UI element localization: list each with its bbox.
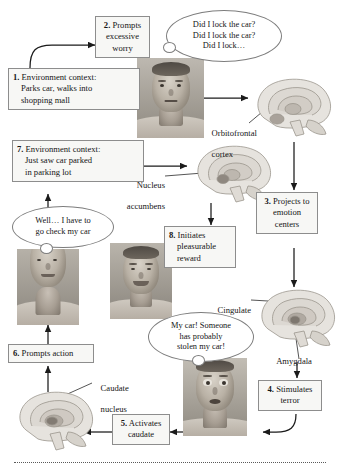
step-1-line-2: Parks car, walks into xyxy=(13,83,135,94)
thought-stolen-line-3: stolen my car! xyxy=(177,342,225,351)
photo-smiling-man xyxy=(110,243,172,319)
photo-nose xyxy=(213,387,218,395)
photo-brow-left xyxy=(158,80,166,82)
thought-tail-stolen-car xyxy=(192,355,205,366)
photo-brow-right xyxy=(175,80,183,82)
label-orbitofrontal-cortex: Orbitofrontal cortex xyxy=(203,117,257,170)
photo-eye-right xyxy=(177,84,181,87)
photo-eye-right xyxy=(147,268,151,270)
photo-mouth xyxy=(41,274,55,277)
brain-caudate xyxy=(10,388,98,458)
thought-worry-text: Did I lock the car? Did I lock the car? … xyxy=(193,20,255,52)
photo-worried-man xyxy=(137,58,204,138)
step-box-2[interactable]: 2. Prompts excessive worry xyxy=(95,16,150,58)
step-8-line-3: reward xyxy=(169,253,231,264)
step-box-4[interactable]: 4. Stimulates terror xyxy=(258,380,322,411)
photo-eye-left xyxy=(160,84,164,87)
step-1-line-1: 1. Environment context: xyxy=(13,72,135,83)
thought-check-line-2: go check my car xyxy=(35,227,90,236)
photo-pupil-left xyxy=(206,381,210,385)
step-3-line-2: emotion xyxy=(273,207,301,217)
step-6-line-1: 6. Prompts action xyxy=(13,348,73,358)
photo-smile xyxy=(133,281,149,286)
brain-orbitofrontal xyxy=(246,74,338,144)
step-8-line-2: pleasurable xyxy=(169,241,231,252)
thought-tail-worry xyxy=(163,42,176,53)
label-amygdala: Amygdala xyxy=(268,345,312,377)
step-2-line-1: 2. Prompts xyxy=(104,20,141,30)
label-cingulate-line-1: Cingulate xyxy=(218,305,251,315)
photo-eye-right xyxy=(53,259,57,261)
step-7-line-2: Just saw car parked xyxy=(17,155,139,166)
photo-terrified-man xyxy=(183,358,247,436)
label-accumbens-line-1: Nucleus xyxy=(137,180,165,190)
thought-check-text: Well… I have to go check my car xyxy=(35,216,90,237)
photo-brow-right xyxy=(145,263,153,265)
thought-stolen-line-1: My car! Someone xyxy=(171,321,231,330)
step-2-line-3: worry xyxy=(112,43,133,53)
label-nucleus-accumbens: Nucleus accumbens xyxy=(101,169,165,222)
diagram-canvas: 1. Environment context: Parks car, walks… xyxy=(0,0,340,472)
label-caudate-nucleus: Caudate nucleus xyxy=(92,372,129,425)
step-8-line-1: 8. Initiates xyxy=(169,230,231,241)
photo-brow-left xyxy=(203,375,212,377)
thought-bubble-check-car: Well… I have to go check my car xyxy=(12,206,114,248)
step-7-line-1: 7. Environment context: xyxy=(17,144,139,155)
step-3-line-3: centers xyxy=(275,219,299,229)
step-box-8[interactable]: 8. Initiates pleasurable reward xyxy=(164,226,236,268)
label-accumbens-line-2: accumbens xyxy=(127,201,165,211)
label-orbitofrontal-line-1: Orbitofrontal xyxy=(212,128,257,138)
step-4-line-1: 4. Stimulates xyxy=(268,384,313,394)
photo-walking-man xyxy=(17,249,79,325)
step-1-line-3: shopping mall xyxy=(13,95,135,106)
thought-tail-check-car xyxy=(40,243,53,254)
arrow-1-to-2 xyxy=(30,45,95,68)
photo-nose xyxy=(139,272,144,279)
photo-mouth xyxy=(164,100,177,102)
step-box-6[interactable]: 6. Prompts action xyxy=(8,344,94,363)
photo-mouth-open xyxy=(210,399,221,404)
step-5-line-2: caudate xyxy=(128,429,154,439)
step-2-line-2: excessive xyxy=(106,31,139,41)
photo-pupil-right xyxy=(222,381,226,385)
step-3-line-1: 3. Projects to xyxy=(264,196,309,206)
step-4-line-2: terror xyxy=(280,395,299,405)
photo-nose xyxy=(46,263,51,270)
thought-worry-line-3: Did I lock… xyxy=(203,41,245,50)
photo-hair xyxy=(152,62,190,76)
step-box-1[interactable]: 1. Environment context: Parks car, walks… xyxy=(8,68,140,110)
label-caudate-line-1: Caudate xyxy=(101,383,129,393)
label-caudate-line-2: nucleus xyxy=(101,404,127,414)
label-orbitofrontal-line-2: cortex xyxy=(212,149,233,159)
photo-nose xyxy=(168,89,173,96)
thought-stolen-line-2: has probably xyxy=(179,332,222,341)
photo-hair xyxy=(123,246,159,259)
thought-stolen-text: My car! Someone has probably stolen my c… xyxy=(171,321,231,353)
photo-eye-left xyxy=(131,268,135,270)
photo-neck xyxy=(36,287,61,315)
thought-bubble-worry: Did I lock the car? Did I lock the car? … xyxy=(166,10,282,62)
photo-brow-right xyxy=(219,375,228,377)
photo-brow-left xyxy=(129,263,137,265)
thought-worry-line-2: Did I lock the car? xyxy=(193,31,255,40)
photo-eye-left xyxy=(37,259,41,261)
thought-check-line-1: Well… I have to xyxy=(35,216,90,225)
label-amygdala-line-1: Amygdala xyxy=(276,356,312,366)
footer-divider xyxy=(14,462,326,463)
arrow-step4-to-face xyxy=(263,414,296,432)
thought-worry-line-1: Did I lock the car? xyxy=(193,20,255,29)
step-box-3[interactable]: 3. Projects to emotion centers xyxy=(256,192,318,234)
